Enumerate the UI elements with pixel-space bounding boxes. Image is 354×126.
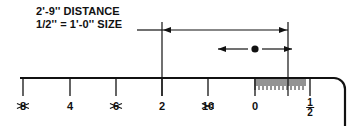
tick-label-4: 4 [67,100,73,112]
dimension-arrow-right [279,27,287,33]
tick-label-0: 0 [252,100,258,112]
tick-label-6: 6 [113,100,119,112]
dimension-arrow-left [163,27,171,33]
scale-ruler-diagram: 2'-9'' DISTANCE 1/2'' = 1'-0'' SIZE 8462… [0,0,354,126]
tick-label-text: 0 [252,100,258,112]
annotation-scale-line: 1/2'' = 1'-0'' SIZE [36,18,122,31]
tick-label-text: 4 [67,100,73,112]
annotation-block: 2'-9'' DISTANCE 1/2'' = 1'-0'' SIZE [36,5,122,31]
annotation-distance-line: 2'-9'' DISTANCE [36,5,122,18]
tick-label-text: 2 [159,100,165,112]
tick-label-10: 10 [202,100,214,112]
tick-label-half-fraction: 12 [306,98,314,117]
pointer-arrow-left [218,46,226,52]
fraction-denominator: 2 [306,108,314,117]
center-dot [251,45,258,52]
center-pointer-group [218,45,292,52]
tick-label-8: 8 [20,100,26,112]
tick-label-2: 2 [159,100,165,112]
